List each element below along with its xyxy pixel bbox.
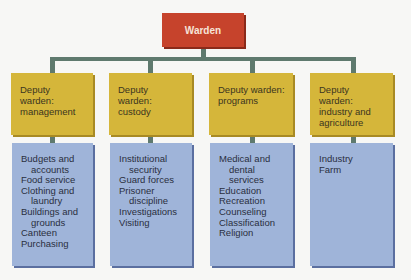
duty-item: Budgets and (21, 154, 87, 165)
duty-item: Purchasing (21, 239, 87, 250)
connector-industry-duties (351, 135, 356, 143)
duty-item: Farm (319, 165, 387, 176)
connector-to-industry (351, 57, 356, 73)
connector-to-management (50, 57, 55, 73)
deputy-custody-box: Deputy warden: custody (109, 73, 192, 135)
connector-custody-duties (148, 135, 153, 143)
duty-item: Industry (319, 154, 387, 165)
duties-management-box: Budgets and accounts Food service Clothi… (12, 143, 93, 266)
duty-item: Religion (219, 228, 287, 239)
connector-to-custody (148, 57, 153, 73)
connector-to-programs (250, 57, 255, 73)
duty-item: Institutional (119, 154, 186, 165)
deputy-title-line: Deputy warden: (118, 84, 184, 106)
connector-management-duties (50, 135, 55, 143)
deputy-industry-box: Deputy warden: industry and agriculture (310, 73, 393, 135)
deputy-programs-box: Deputy warden: programs (209, 73, 293, 135)
duty-item: Buildings and (21, 207, 87, 218)
deputy-title-line: Deputy warden: (218, 84, 285, 95)
deputy-title-line: Deputy warden: (20, 84, 85, 106)
duties-industry-box: Industry Farm (310, 143, 393, 266)
deputy-title-line: programs (218, 95, 285, 106)
duty-item: Medical and (219, 154, 287, 165)
duty-item: Investigations (119, 207, 186, 218)
warden-label: Warden (185, 25, 221, 36)
deputy-title-line: management (20, 106, 85, 117)
duty-item: Counseling (219, 207, 287, 218)
connector-programs-duties (250, 135, 255, 143)
deputy-management-box: Deputy warden: management (11, 73, 93, 135)
duties-custody-box: Institutional security Guard forces Pris… (110, 143, 192, 266)
duty-item: Visiting (119, 218, 186, 229)
deputy-title-line: industry and (319, 106, 385, 117)
deputy-title-line: agriculture (319, 117, 385, 128)
deputy-title-line: Deputy warden: (319, 84, 385, 106)
duties-programs-box: Medical and dental services Education Re… (210, 143, 293, 266)
deputy-title-line: custody (118, 106, 184, 117)
connector-horizontal (50, 57, 356, 61)
warden-box: Warden (162, 13, 244, 47)
